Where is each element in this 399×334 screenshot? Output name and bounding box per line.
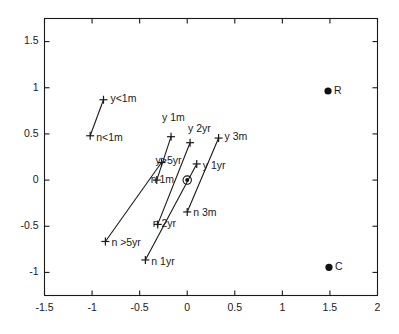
point-label: n<1m: [96, 131, 123, 143]
cross-marker: [141, 256, 149, 264]
y-tick-label: 1: [33, 81, 39, 93]
x-tick-label: 2: [375, 301, 381, 313]
x-tick-label: -1: [87, 301, 96, 313]
origin-circled-dot-marker: [183, 176, 191, 184]
x-tick-label: -0.5: [131, 301, 149, 313]
point-label: y>5yr: [156, 154, 182, 166]
cross-marker: [215, 134, 223, 142]
point-label: C: [335, 260, 343, 272]
connector-line-3m: [187, 138, 218, 212]
filled-circle-marker: [325, 264, 332, 271]
y-tick-label: 0: [33, 173, 39, 185]
x-tick-label: 0.5: [227, 301, 242, 313]
cross-marker: [86, 132, 94, 140]
y-tick-label: 1.5: [24, 34, 39, 46]
plot-canvas: -1.5-1-0.500.511.52 1.510.50-0.5-1 y<1mn…: [0, 0, 399, 334]
x-tick-label: 1.5: [323, 301, 338, 313]
data-point-labels: y<1mn<1my 1my>5yrn 1my 2yry 3my 1yrn 3mn…: [96, 84, 343, 272]
x-tick-label: -1.5: [35, 301, 53, 313]
y-tick-label: -0.5: [20, 219, 38, 231]
cross-marker: [193, 160, 201, 168]
y-tick-label: 0.5: [24, 127, 39, 139]
y-tick-label: -1: [29, 265, 38, 277]
cross-marker: [186, 139, 194, 147]
point-label: n >5yr: [111, 236, 141, 248]
point-label: y 1yr: [203, 159, 226, 171]
x-tick-label: 0: [184, 301, 190, 313]
point-label: y 1m: [162, 111, 185, 123]
point-label: y 2yr: [188, 122, 211, 134]
x-tick-label: 1: [279, 301, 285, 313]
point-label: y<1m: [110, 92, 136, 104]
point-label: y 3m: [225, 130, 248, 142]
filled-circle-marker: [324, 87, 331, 94]
cross-marker: [99, 96, 107, 104]
point-label: n 3m: [193, 206, 217, 218]
point-label: n 1m: [151, 173, 175, 185]
scatter-plot-figure: -1.5-1-0.500.511.52 1.510.50-0.5-1 y<1mn…: [0, 0, 399, 334]
y-axis-ticks: 1.510.50-0.5-1: [20, 34, 377, 277]
cross-marker: [101, 237, 109, 245]
cross-marker: [167, 133, 175, 141]
point-label: n 2yr: [153, 217, 177, 229]
cross-marker: [183, 208, 191, 216]
point-label: R: [334, 84, 342, 96]
point-label: n 1yr: [151, 255, 175, 267]
